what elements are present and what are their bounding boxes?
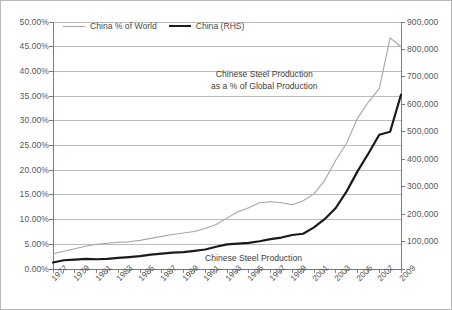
y-axis-left-tick-label: 15.00% (3, 189, 49, 199)
chart-container: China % of World China (RHS) Chinese Ste… (0, 0, 452, 310)
annotation-percent-of-global: Chinese Steel Production as a % of Globa… (211, 69, 318, 92)
legend-item-china-pct-of-world: China % of World (63, 21, 157, 31)
y-axis-right-tick-label: 900,000 (407, 17, 438, 27)
y-axis-left-tick-label: 5.00% (3, 239, 49, 249)
legend-label: China % of World (90, 21, 157, 31)
y-axis-right-tick-label: 500,000 (407, 126, 438, 136)
y-axis-right-tick-label: 300,000 (407, 181, 438, 191)
y-axis-right-tick-label: 600,000 (407, 99, 438, 109)
legend-label: China (RHS) (196, 21, 245, 31)
chart-legend: China % of World China (RHS) (63, 21, 244, 31)
y-axis-left-tick-label: 45.00% (3, 41, 49, 51)
annotation-line-2: as a % of Global Production (211, 81, 318, 93)
y-axis-right-tick-label: 700,000 (407, 71, 438, 81)
y-axis-left-tick-label: 25.00% (3, 140, 49, 150)
y-axis-left-tick-label: 35.00% (3, 91, 49, 101)
y-axis-right-tick-label: 800,000 (407, 44, 438, 54)
legend-swatch-line-icon (169, 25, 191, 27)
y-axis-right-tick-label: 100,000 (407, 236, 438, 246)
annotation-line-1: Chinese Steel Production (211, 69, 318, 81)
y-axis-right-tick-label: 400,000 (407, 154, 438, 164)
y-axis-left-tick-label: 20.00% (3, 165, 49, 175)
y-axis-left-tick-label: 30.00% (3, 115, 49, 125)
y-axis-left-tick-label: 10.00% (3, 214, 49, 224)
y-axis-left-tick-label: 40.00% (3, 66, 49, 76)
legend-item-china-rhs: China (RHS) (169, 21, 245, 31)
y-axis-left-tick-label: 50.00% (3, 17, 49, 27)
annotation-chinese-steel-production: Chinese Steel Production (205, 253, 302, 265)
y-axis-left-tick-label: 0.00% (3, 264, 49, 274)
legend-swatch-line-icon (63, 26, 85, 27)
y-axis-right-tick-label: 200,000 (407, 209, 438, 219)
